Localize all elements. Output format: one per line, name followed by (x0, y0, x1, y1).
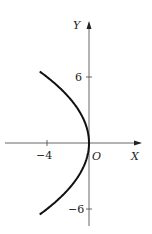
y-axis-label: Y (73, 19, 82, 32)
x-axis-label: X (130, 150, 140, 163)
origin-label: O (92, 150, 101, 163)
tick-label-y-neg6: −6 (68, 203, 84, 216)
tick-label-y-6: 6 (75, 71, 82, 84)
tick-label-x-neg4: −4 (36, 149, 52, 162)
parabola-chart: Y X O 6 −6 −4 (0, 0, 152, 234)
